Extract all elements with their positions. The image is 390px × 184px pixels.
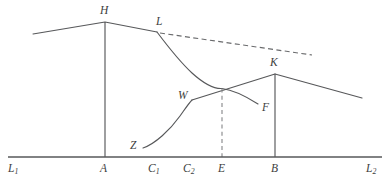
diagram-canvas bbox=[0, 0, 390, 184]
point-label-F: F bbox=[262, 102, 269, 114]
axis-label-B-text: B bbox=[271, 162, 278, 174]
axis-label-A-text: A bbox=[100, 162, 107, 174]
axis-label-C1: C1 bbox=[148, 163, 160, 175]
dashed-trend-line bbox=[160, 33, 312, 55]
axis-label-A: A bbox=[100, 163, 107, 175]
curve-l-descending bbox=[157, 32, 258, 104]
axis-label-L1-sub: 1 bbox=[14, 167, 18, 176]
point-label-W: W bbox=[178, 90, 188, 102]
axis-label-E: E bbox=[218, 163, 225, 175]
curve-wk-rising bbox=[192, 74, 275, 100]
axis-label-L2: L2 bbox=[366, 163, 376, 175]
axis-label-L1: L1 bbox=[8, 163, 18, 175]
curve-z-rising bbox=[143, 100, 192, 148]
curve-k-descending bbox=[275, 74, 362, 98]
point-label-L: L bbox=[156, 16, 162, 28]
curve-h-peak bbox=[33, 22, 157, 34]
economic-line-diagram: H L K W Z F L1 A C1 C2 E B L2 bbox=[0, 0, 390, 184]
axis-label-C2-sub: 2 bbox=[191, 167, 195, 176]
axis-label-C1-text: C bbox=[148, 162, 156, 174]
axis-label-L2-sub: 2 bbox=[372, 167, 376, 176]
axis-label-E-text: E bbox=[218, 162, 225, 174]
axis-label-C2-text: C bbox=[183, 162, 191, 174]
axis-label-B: B bbox=[271, 163, 278, 175]
axis-label-C1-sub: 1 bbox=[156, 167, 160, 176]
point-label-Z: Z bbox=[130, 140, 136, 152]
point-label-K: K bbox=[270, 57, 278, 69]
point-label-H: H bbox=[100, 5, 108, 17]
axis-label-C2: C2 bbox=[183, 163, 195, 175]
